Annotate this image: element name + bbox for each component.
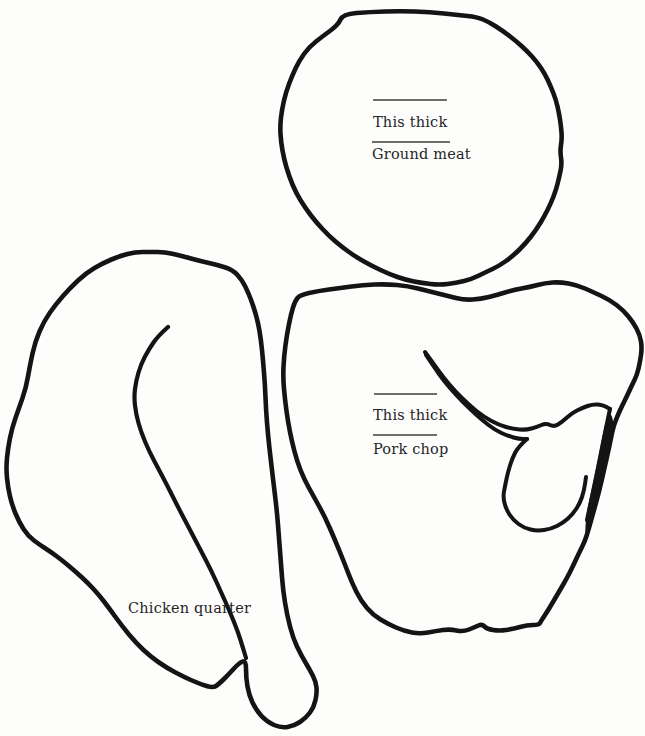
ground-meat-measure-label: This thick <box>373 114 447 130</box>
pork-chop-fat-crescent <box>586 415 612 533</box>
pork-chop-measure-label: This thick <box>373 407 447 423</box>
chicken-quarter-name-label: Chicken quarter <box>128 600 251 616</box>
pork-chop-outline <box>283 282 641 633</box>
pork-chop-bone-knob <box>504 439 586 530</box>
ground-meat-name-label: Ground meat <box>372 146 471 162</box>
figure-canvas: This thick Ground meat This thick Pork c… <box>0 0 645 736</box>
chicken-quarter-outline <box>7 252 317 727</box>
meat-portions-illustration: This thick Ground meat This thick Pork c… <box>0 0 645 736</box>
pork-chop-name-label: Pork chop <box>373 441 449 457</box>
